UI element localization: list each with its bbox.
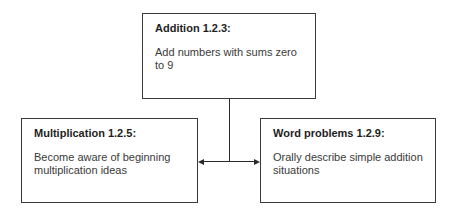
arrow-right-icon bbox=[254, 159, 260, 165]
word-problems-box: Word problems 1.2.9: Orally describe sim… bbox=[260, 118, 436, 203]
multiplication-title: Multiplication 1.2.5: bbox=[34, 127, 136, 139]
arrow-left-icon bbox=[198, 159, 204, 165]
multiplication-box: Multiplication 1.2.5: Become aware of be… bbox=[21, 118, 198, 203]
addition-title: Addition 1.2.3: bbox=[155, 22, 231, 34]
connector-horizontal bbox=[201, 161, 256, 162]
addition-box: Addition 1.2.3: Add numbers with sums ze… bbox=[142, 13, 316, 99]
multiplication-description: Become aware of beginning multiplication… bbox=[34, 151, 184, 177]
word-problems-title: Word problems 1.2.9: bbox=[273, 127, 385, 139]
word-problems-description: Orally describe simple addition situatio… bbox=[273, 151, 433, 177]
connector-vertical bbox=[229, 99, 230, 161]
addition-description: Add numbers with sums zero to 9 bbox=[155, 46, 305, 72]
